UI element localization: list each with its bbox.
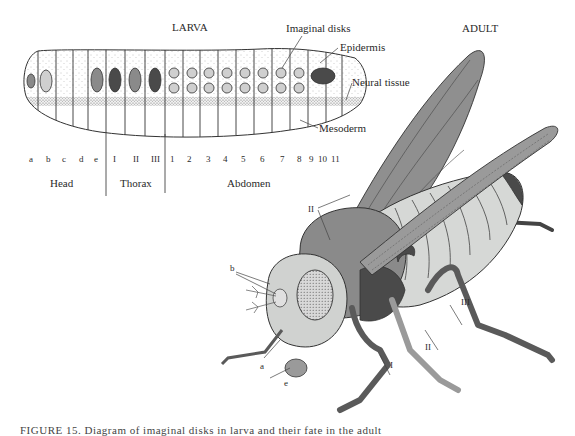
imaginal-disks-label: Imaginal disks xyxy=(286,22,350,34)
thorax-disk xyxy=(129,68,141,92)
head-b-label: b xyxy=(230,263,235,273)
mesoderm-label: Mesoderm xyxy=(319,122,366,134)
leg-i-label: I xyxy=(390,360,393,370)
epidermis-label: Epidermis xyxy=(340,41,385,53)
svg-text:d: d xyxy=(79,154,84,164)
head-e-label: e xyxy=(284,378,288,388)
leg-iii-label: III xyxy=(461,297,470,307)
neural-tissue-label: Neural tissue xyxy=(352,76,410,88)
svg-text:c: c xyxy=(62,154,66,164)
svg-text:6: 6 xyxy=(260,154,265,164)
leg-ii-label: II xyxy=(425,342,431,352)
genital-disk xyxy=(311,68,335,84)
larva-title: LARVA xyxy=(172,21,208,33)
svg-text:11: 11 xyxy=(331,154,340,164)
svg-text:I: I xyxy=(113,154,116,164)
segment-ii-label: II xyxy=(308,204,314,214)
compound-eye xyxy=(297,270,333,320)
thorax-disk xyxy=(149,68,161,92)
maxillary-palp xyxy=(222,330,282,364)
proboscis xyxy=(285,359,307,377)
thorax-disk xyxy=(109,68,121,92)
svg-text:8: 8 xyxy=(297,154,302,164)
head-region-label: Head xyxy=(50,177,74,189)
antenna-base xyxy=(273,289,287,307)
thorax-region-label: Thorax xyxy=(120,177,152,189)
head-a-label: a xyxy=(260,361,264,371)
svg-text:10: 10 xyxy=(318,154,328,164)
svg-text:e: e xyxy=(94,154,98,164)
svg-text:b: b xyxy=(46,154,51,164)
adult-title: ADULT xyxy=(462,22,499,34)
svg-text:a: a xyxy=(29,154,33,164)
svg-text:1: 1 xyxy=(170,154,175,164)
figure-caption: FIGURE 15. Diagram of imaginal disks in … xyxy=(20,424,382,436)
svg-text:9: 9 xyxy=(309,154,314,164)
svg-text:3: 3 xyxy=(206,154,211,164)
leg-front xyxy=(340,308,388,410)
svg-text:4: 4 xyxy=(223,154,228,164)
thorax-disk xyxy=(91,68,103,92)
svg-text:5: 5 xyxy=(241,154,246,164)
svg-text:2: 2 xyxy=(187,154,192,164)
larva-diagram: LARVA xyxy=(20,21,410,196)
svg-text:III: III xyxy=(151,154,160,164)
svg-text:7: 7 xyxy=(280,154,285,164)
abdomen-region-label: Abdomen xyxy=(227,177,271,189)
segment-labels: a b c d e I II III 1 2 3 4 5 6 7 8 9 10 … xyxy=(29,154,340,164)
head-disk-b xyxy=(40,70,52,92)
svg-text:II: II xyxy=(133,154,139,164)
head-disk-a xyxy=(27,74,35,88)
